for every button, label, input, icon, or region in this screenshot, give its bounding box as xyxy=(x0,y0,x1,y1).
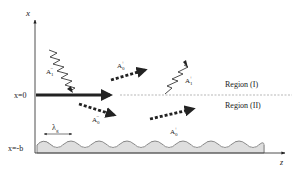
svg-text:A1−: A1− xyxy=(46,66,54,77)
z-axis: z xyxy=(35,153,285,167)
svg-text:A1+: A1+ xyxy=(185,75,193,86)
grating-profile xyxy=(37,141,264,153)
interface-line: x=0 xyxy=(14,91,292,100)
x-axis-label: x xyxy=(25,8,30,18)
svg-text:A0+: A0+ xyxy=(170,126,178,137)
region-1-label: Region (I) xyxy=(225,80,258,89)
x0-label: x=0 xyxy=(14,91,27,100)
incident-wave-a1-minus: A1− xyxy=(46,50,75,93)
svg-text:A0+: A0+ xyxy=(117,60,125,71)
diagram-canvas: x z x=0 x=-b Region (I) Region (II) A1− … xyxy=(0,0,300,173)
x-axis: x xyxy=(25,8,35,153)
svg-text:λg: λg xyxy=(52,123,59,133)
grating-period-indicator: λg xyxy=(44,123,72,134)
dotted-wave-a0-minus: A0− xyxy=(79,104,114,125)
dotted-wave-a0-plus-upper: A0+ xyxy=(111,60,145,80)
region-2-label: Region (II) xyxy=(225,101,261,110)
z-axis-label: z xyxy=(279,158,284,167)
dotted-wave-a0-plus-lower: A0+ xyxy=(150,109,193,137)
svg-text:A0−: A0− xyxy=(92,114,100,125)
xb-label: x=-b xyxy=(8,144,23,153)
reflected-wave-a1-plus: A1+ xyxy=(165,60,193,94)
